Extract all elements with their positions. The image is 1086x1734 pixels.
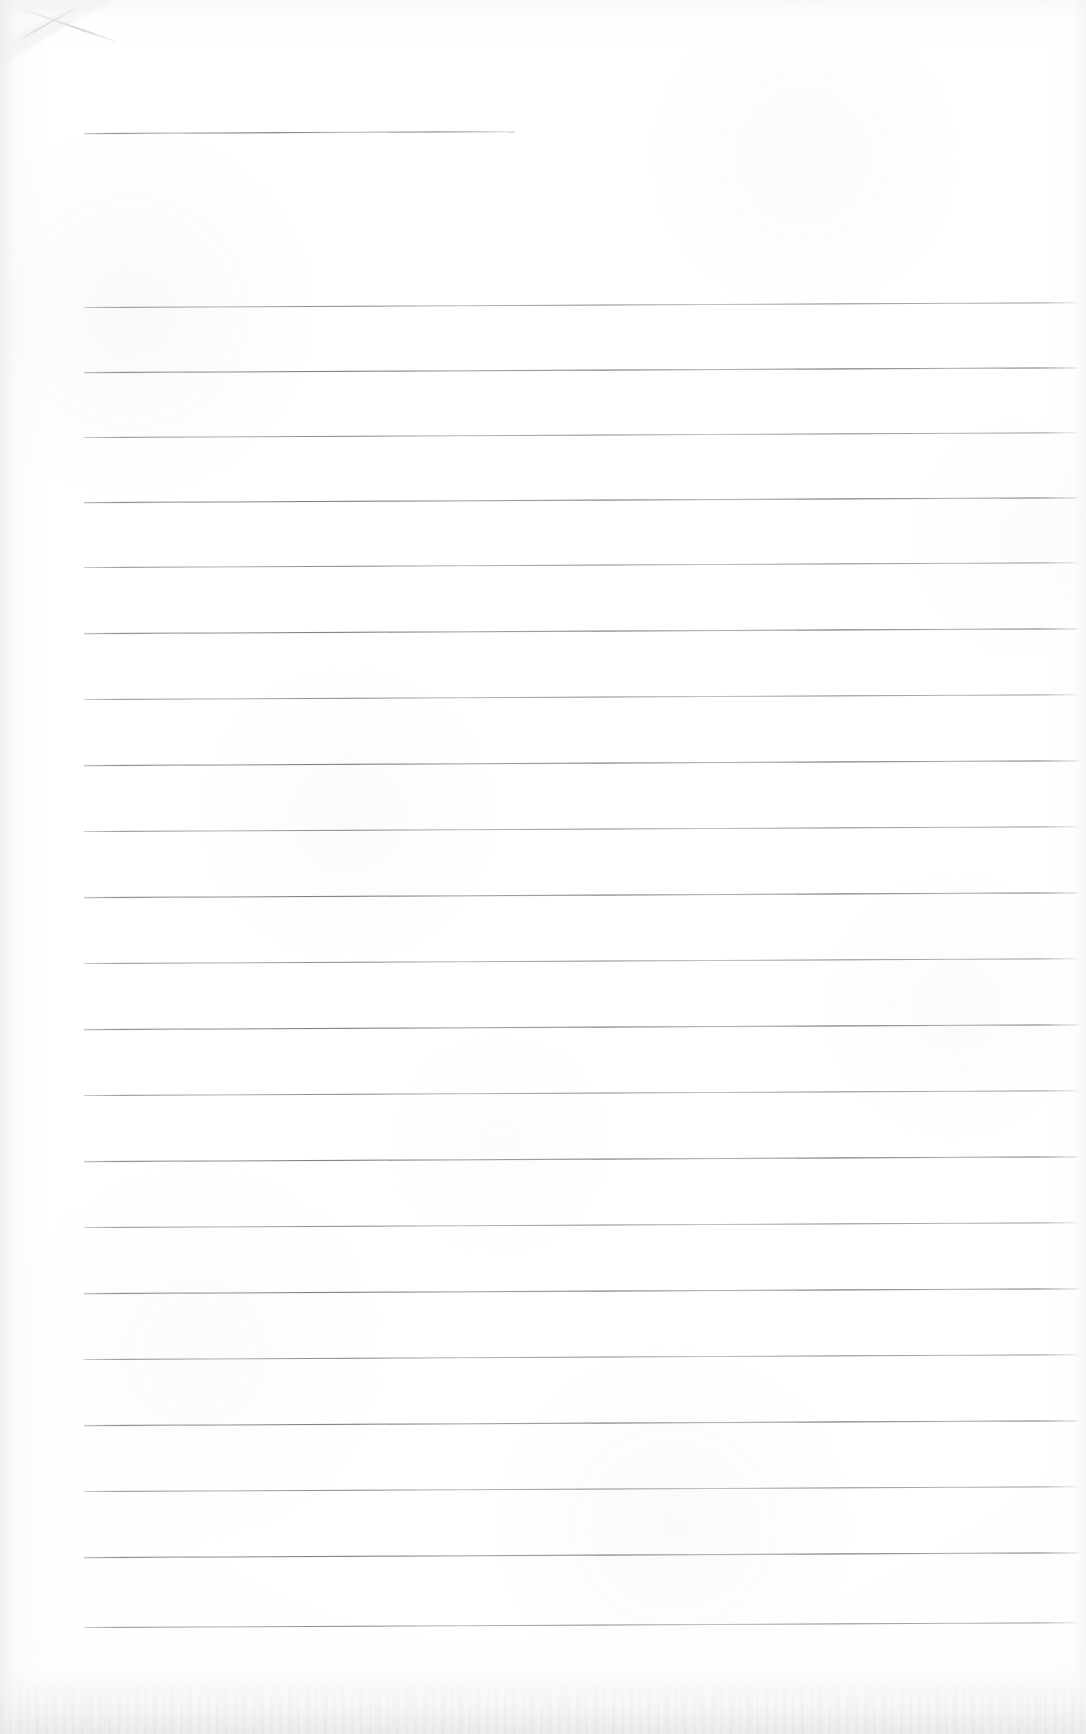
paper-surface [0, 0, 1086, 1734]
scanned-page [0, 0, 1086, 1734]
